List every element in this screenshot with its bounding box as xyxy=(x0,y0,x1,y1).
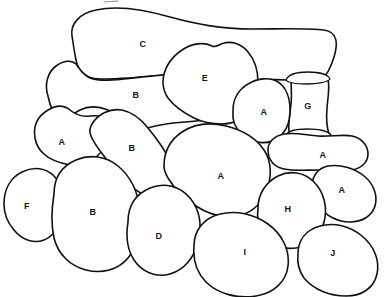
region-shape-j[interactable] xyxy=(298,224,378,296)
region-shape-d[interactable] xyxy=(127,185,200,275)
region-label-b-upper: B xyxy=(133,90,140,100)
region-label-a-center: A xyxy=(218,171,225,181)
faint-stroke-mark xyxy=(104,1,118,2)
region-label-a-upper-left: A xyxy=(59,137,66,147)
diagram-canvas: C E B G A A B A A A F H B D I J xyxy=(0,0,384,297)
region-shape-g-top-cap xyxy=(286,72,330,84)
region-label-b-lower-left: B xyxy=(90,207,97,217)
cell-packing-figure xyxy=(0,0,384,297)
region-label-h: H xyxy=(285,204,292,214)
region-label-f: F xyxy=(24,201,30,211)
region-label-d: D xyxy=(156,231,163,241)
region-label-b-diagonal: B xyxy=(129,143,136,153)
region-label-c: C xyxy=(140,39,147,49)
region-label-i: I xyxy=(244,247,247,257)
region-label-a-right-lower: A xyxy=(339,185,346,195)
region-label-a-right-upper: A xyxy=(320,150,327,160)
region-label-a-near-g: A xyxy=(261,107,268,117)
region-shape-a-right-upper[interactable] xyxy=(268,133,368,171)
region-label-g: G xyxy=(304,101,311,111)
region-label-e: E xyxy=(202,73,208,83)
region-label-j: J xyxy=(330,248,335,258)
